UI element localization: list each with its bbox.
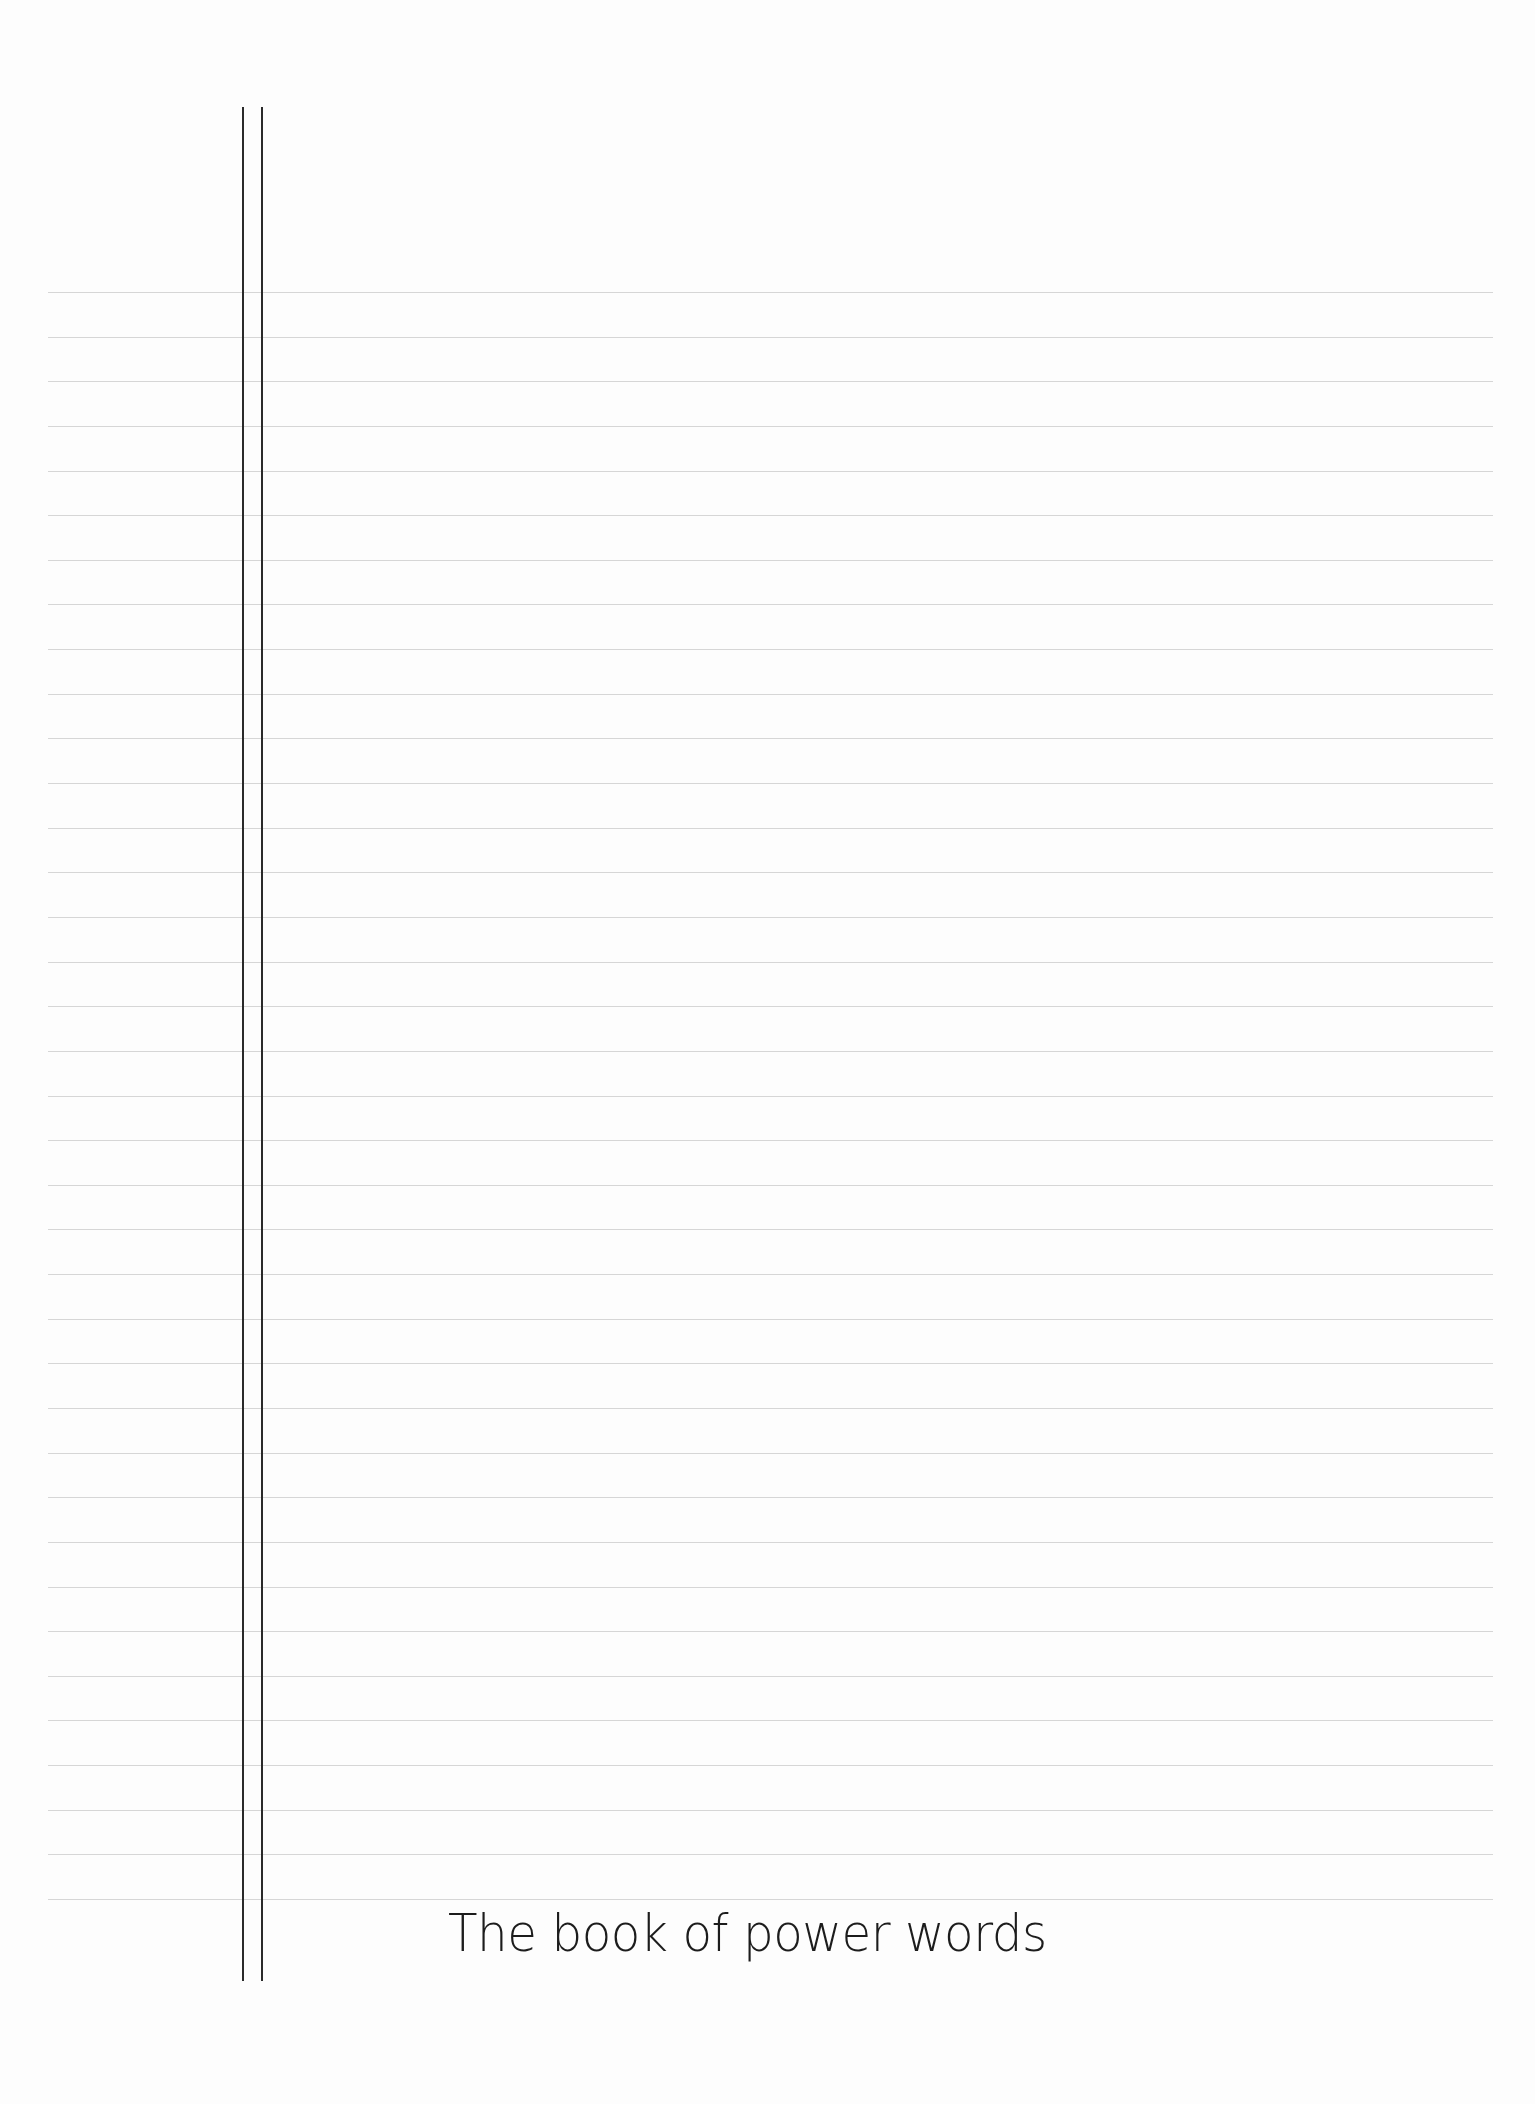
ruled-line: [48, 872, 1493, 873]
ruled-line: [48, 783, 1493, 784]
ruled-line: [48, 471, 1493, 472]
ruled-line: [48, 337, 1493, 338]
ruled-line: [48, 381, 1493, 382]
ruled-line: [48, 1497, 1493, 1498]
margin-line: [242, 107, 244, 1981]
ruled-line: [48, 1140, 1493, 1141]
ruled-line: [48, 1810, 1493, 1811]
ruled-line: [48, 1720, 1493, 1721]
ruled-line: [48, 1854, 1493, 1855]
ruled-line: [48, 1631, 1493, 1632]
ruled-line: [48, 1408, 1493, 1409]
ruled-line: [48, 515, 1493, 516]
ruled-line: [48, 1229, 1493, 1230]
ruled-line: [48, 1676, 1493, 1677]
ruled-line: [48, 292, 1493, 293]
ruled-line: [48, 1899, 1493, 1900]
ruled-line: [48, 1274, 1493, 1275]
ruled-line: [48, 560, 1493, 561]
ruled-line: [48, 649, 1493, 650]
ruled-line: [48, 1096, 1493, 1097]
ruled-line: [48, 426, 1493, 427]
margin-line: [261, 107, 263, 1981]
ruled-line: [48, 1363, 1493, 1364]
ruled-line: [48, 1319, 1493, 1320]
page-title: The book of power words: [448, 1903, 1047, 1963]
ruled-line: [48, 1587, 1493, 1588]
ruled-line: [48, 694, 1493, 695]
notebook-page: The book of power words: [0, 0, 1535, 2104]
ruled-line: [48, 1542, 1493, 1543]
ruled-line: [48, 738, 1493, 739]
ruled-line: [48, 962, 1493, 963]
ruled-line: [48, 1051, 1493, 1052]
ruled-line: [48, 1453, 1493, 1454]
ruled-line: [48, 828, 1493, 829]
ruled-line: [48, 604, 1493, 605]
ruled-line: [48, 917, 1493, 918]
ruled-line: [48, 1006, 1493, 1007]
ruled-line: [48, 1185, 1493, 1186]
ruled-line: [48, 1765, 1493, 1766]
